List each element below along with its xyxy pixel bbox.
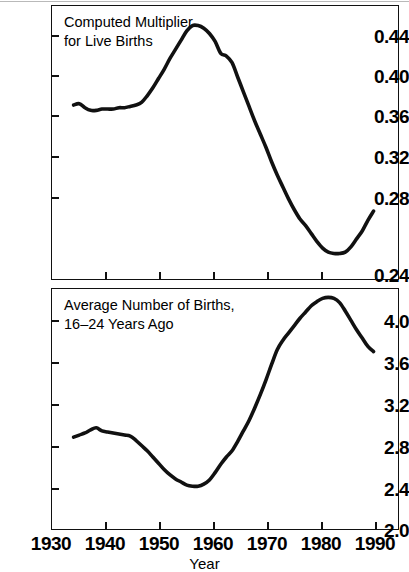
x-tick-label-1930: 1930 xyxy=(21,534,81,553)
panel-average-births: 4.0 3.6 3.2 2.8 2.4 2.0 Average Number o… xyxy=(0,0,409,572)
x-tick-label-1940: 1940 xyxy=(75,534,135,553)
x-tick-label-1970: 1970 xyxy=(237,534,297,553)
series-plot-bottom xyxy=(51,288,399,530)
x-tick-label-1980: 1980 xyxy=(291,534,351,553)
series-line-average-births xyxy=(74,297,374,486)
figure-two-panel-time-series: 0.44 0.40 0.36 0.32 0.28 0.24 Computed M… xyxy=(0,0,409,572)
x-tick-label-1990: 1990 xyxy=(345,534,405,553)
x-tick-label-1950: 1950 xyxy=(129,534,189,553)
x-axis-title: Year xyxy=(0,556,409,571)
x-tick-label-1960: 1960 xyxy=(183,534,243,553)
